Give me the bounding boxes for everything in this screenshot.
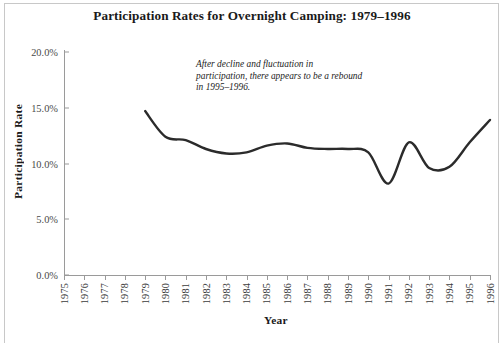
series-line-overnight-camping [145, 111, 490, 184]
chart-figure: Participation Rates for Overnight Campin… [0, 0, 504, 352]
chart-annotation: After decline and fluctuation inparticip… [196, 59, 366, 94]
annotation-line: After decline and fluctuation in [196, 59, 366, 71]
annotation-line: participation, there appears to be a reb… [196, 71, 366, 83]
annotation-line: in 1995–1996. [196, 82, 366, 94]
data-series-layer [0, 0, 504, 352]
